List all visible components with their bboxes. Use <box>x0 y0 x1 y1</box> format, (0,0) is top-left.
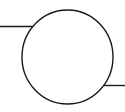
diagram-canvas <box>0 0 125 112</box>
circle-component-body <box>22 10 113 104</box>
